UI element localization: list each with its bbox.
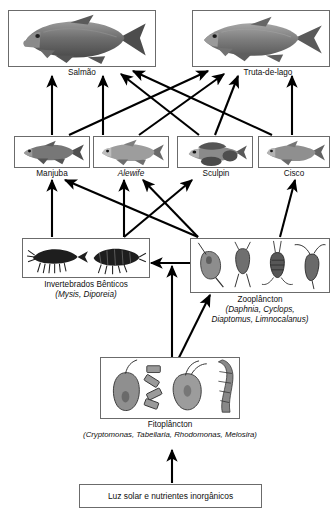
edge-zooplankton-to-alewife: [143, 180, 198, 237]
label-zooplankton-species-1: (Daphnia, Cyclops,: [186, 305, 334, 315]
label-zooplankton-species-2: Diaptomus, Limnocalanus): [186, 315, 334, 325]
label-sunlight: Luz solar e nutrientes inorgânicos: [108, 491, 233, 501]
label-benthic-species: (Mysis, Diporeia): [14, 290, 158, 300]
edge-zooplankton-to-smelt: [65, 180, 198, 237]
node-alewife-box[interactable]: [93, 136, 169, 168]
node-sunlight-box[interactable]: Luz solar e nutrientes inorgânicos: [79, 484, 262, 508]
label-smelt: Manjuba: [16, 169, 88, 179]
label-zooplankton: Zooplâncton: [190, 295, 330, 305]
edge-sculpin-to-salmon: [121, 74, 199, 135]
label-salmon: Salmão: [36, 68, 128, 78]
label-phytoplankton: Fitoplâncton: [100, 420, 240, 430]
node-salmon-box[interactable]: [8, 10, 156, 67]
alewife-fish-illustration: [94, 137, 168, 167]
food-web-diagram: Salmão Truta-: [0, 0, 335, 525]
phytoplankton-illustration: [101, 358, 239, 418]
label-benthic: Invertebrados Bênticos: [14, 280, 158, 290]
smelt-fish-illustration: [15, 137, 89, 167]
edge-alewife-to-lake-trout: [139, 74, 224, 135]
benthic-invertebrates-illustration: [23, 239, 149, 277]
sculpin-fish-illustration: [178, 137, 252, 167]
edge-sculpin-to-lake-trout: [215, 76, 238, 135]
edge-smelt-to-lake-trout: [69, 71, 208, 135]
label-lake-trout: Truta-de-lago: [218, 68, 318, 78]
edge-cisco-to-salmon: [133, 71, 272, 135]
node-lake-trout-box[interactable]: [192, 10, 330, 67]
label-alewife: Alewife: [96, 169, 166, 179]
label-sculpin: Sculpin: [182, 169, 250, 179]
node-smelt-box[interactable]: [14, 136, 90, 168]
node-benthic-box[interactable]: [22, 238, 150, 278]
zooplankton-illustration: [191, 239, 329, 292]
label-cisco: Cisco: [262, 169, 326, 179]
node-phytoplankton-box[interactable]: [100, 357, 240, 419]
edge-zooplankton-to-cisco: [280, 180, 295, 237]
salmon-fish-illustration: [9, 11, 155, 66]
node-cisco-box[interactable]: [258, 136, 330, 168]
node-sculpin-box[interactable]: [177, 136, 253, 168]
cisco-fish-illustration: [259, 137, 329, 167]
lake-trout-fish-illustration: [193, 11, 329, 66]
edge-benthic-to-sculpin: [124, 180, 192, 237]
node-zooplankton-box[interactable]: [190, 238, 330, 293]
label-phytoplankton-species: (Cryptomonas, Tabellaria, Rhodomonas, Me…: [42, 430, 298, 440]
